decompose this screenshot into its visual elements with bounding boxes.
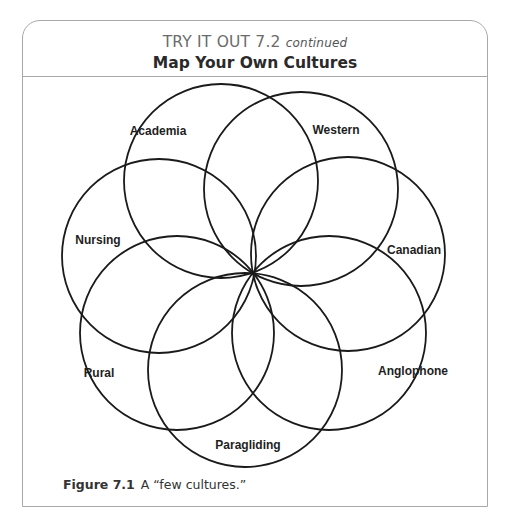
culture-label-nursing: Nursing	[75, 233, 120, 247]
culture-label-rural: Rural	[84, 366, 115, 380]
culture-circles-diagram: AcademiaWesternCanadianAnglophoneParagli…	[0, 0, 510, 527]
culture-label-academia: Academia	[130, 124, 187, 138]
culture-label-anglophone: Anglophone	[378, 364, 448, 378]
culture-circle-anglophone	[232, 236, 426, 430]
culture-label-canadian: Canadian	[387, 243, 441, 257]
culture-label-western: Western	[312, 123, 359, 137]
culture-circle-western	[204, 92, 398, 286]
culture-circle-rural	[80, 236, 274, 430]
culture-label-paragliding: Paragliding	[215, 438, 280, 452]
